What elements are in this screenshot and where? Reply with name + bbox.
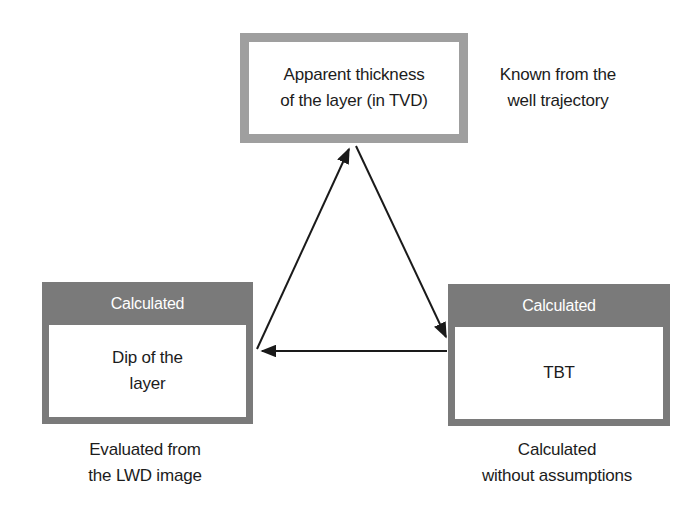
evaluated-from-annotation: Evaluated from the LWD image bbox=[50, 437, 240, 489]
dip-box-body: Dip of the layer bbox=[49, 325, 246, 417]
tbt-box: Calculated TBT bbox=[448, 284, 670, 426]
tbt-box-header: Calculated bbox=[455, 284, 663, 327]
apparent-thickness-box: Apparent thickness of the layer (in TVD) bbox=[240, 33, 468, 143]
tbt-label: TBT bbox=[543, 360, 575, 386]
tbt-box-body: TBT bbox=[455, 327, 663, 419]
calculated-without-annotation: Calculated without assumptions bbox=[462, 437, 652, 489]
known-from-annotation: Known from the well trajectory bbox=[473, 62, 643, 114]
arrow-dip-to-thickness bbox=[257, 149, 349, 349]
dip-label: Dip of the layer bbox=[112, 345, 183, 397]
apparent-thickness-label: Apparent thickness of the layer (in TVD) bbox=[280, 62, 428, 114]
dip-box: Calculated Dip of the layer bbox=[42, 282, 253, 424]
arrow-thickness-to-tbt bbox=[356, 146, 446, 337]
diagram-canvas: Apparent thickness of the layer (in TVD)… bbox=[0, 0, 691, 531]
dip-box-header: Calculated bbox=[49, 282, 246, 325]
